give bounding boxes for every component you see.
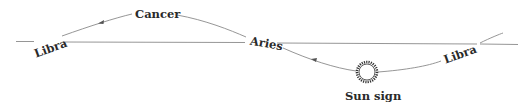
zodiac-diagram: Libra Cancer Aries Libra Sun sign xyxy=(0,0,520,106)
label-libra-left: Libra xyxy=(32,36,69,61)
sun-icon xyxy=(357,62,377,82)
label-cancer: Cancer xyxy=(135,7,181,21)
direction-arrow-icon xyxy=(98,20,104,24)
label-libra-right: Libra xyxy=(442,42,479,67)
label-aries: Aries xyxy=(248,34,284,54)
label-sun-sign: Sun sign xyxy=(345,89,402,103)
